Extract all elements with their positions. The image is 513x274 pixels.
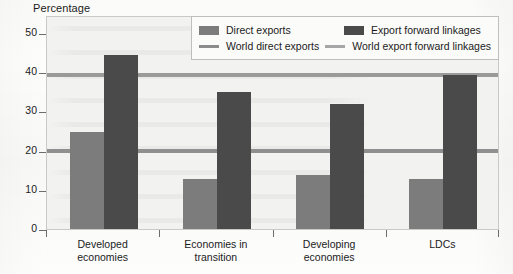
bar bbox=[217, 92, 251, 229]
y-tick-label: 20 bbox=[25, 144, 37, 156]
x-axis-category-line: Developed bbox=[46, 238, 159, 251]
legend-row-swatches: Direct exports Export forward linkages bbox=[199, 22, 491, 38]
x-axis-category-label: LDCs bbox=[386, 238, 499, 251]
x-tick-mark bbox=[159, 230, 160, 237]
x-axis-category-line: LDCs bbox=[386, 238, 499, 251]
x-axis-category-label: Developedeconomies bbox=[46, 238, 159, 263]
x-tick-mark bbox=[498, 230, 499, 237]
y-axis: 01020304050 bbox=[0, 16, 46, 230]
y-tick-mark bbox=[39, 152, 46, 153]
legend-entry-world-direct-exports: World direct exports bbox=[199, 40, 325, 52]
bar bbox=[330, 104, 364, 229]
legend-swatch-export-forward-linkages-icon bbox=[344, 26, 364, 35]
x-axis-category-label: Developingeconomies bbox=[273, 238, 386, 263]
bar bbox=[104, 55, 138, 229]
x-axis-category-line: economies bbox=[273, 251, 386, 264]
legend-entry-world-export-forward-linkages: World export forward linkages bbox=[325, 40, 491, 52]
y-tick-label: 0 bbox=[31, 222, 37, 234]
x-axis-category-line: Economies in bbox=[159, 238, 272, 251]
y-tick-mark bbox=[39, 191, 46, 192]
y-tick-mark bbox=[39, 230, 46, 231]
x-axis-category-line: transition bbox=[159, 251, 272, 264]
x-axis-category-line: economies bbox=[46, 251, 159, 264]
bar bbox=[70, 132, 104, 229]
chart-legend: Direct exports Export forward linkages W… bbox=[191, 16, 499, 60]
y-axis-title: Percentage bbox=[33, 2, 90, 14]
y-tick-mark bbox=[39, 34, 46, 35]
bar bbox=[409, 179, 443, 229]
legend-label-world-direct-exports: World direct exports bbox=[226, 40, 319, 52]
x-axis: DevelopedeconomiesEconomies intransition… bbox=[46, 230, 499, 274]
legend-swatch-direct-exports-icon bbox=[199, 26, 219, 35]
y-tick-label: 30 bbox=[25, 104, 37, 116]
bar bbox=[183, 179, 217, 229]
y-tick-mark bbox=[39, 73, 46, 74]
x-tick-mark bbox=[273, 230, 274, 237]
legend-label-direct-exports: Direct exports bbox=[226, 24, 291, 36]
bar bbox=[443, 75, 477, 229]
bar bbox=[296, 175, 330, 229]
y-tick-label: 50 bbox=[25, 26, 37, 38]
y-tick-mark bbox=[39, 112, 46, 113]
x-axis-category-label: Economies intransition bbox=[159, 238, 272, 263]
y-tick-label: 40 bbox=[25, 65, 37, 77]
legend-entry-export-forward-linkages: Export forward linkages bbox=[344, 24, 481, 36]
legend-line-world-export-forward-linkages-icon bbox=[325, 45, 345, 48]
legend-label-export-forward-linkages: Export forward linkages bbox=[371, 24, 481, 36]
legend-entry-direct-exports: Direct exports bbox=[199, 24, 344, 36]
bar-group bbox=[70, 16, 138, 229]
x-axis-category-line: Developing bbox=[273, 238, 386, 251]
legend-line-world-direct-exports-icon bbox=[199, 45, 219, 48]
y-tick-label: 10 bbox=[25, 183, 37, 195]
x-tick-mark bbox=[386, 230, 387, 237]
x-tick-mark bbox=[46, 230, 47, 237]
chart-figure: Percentage 01020304050 Developedeconomie… bbox=[0, 0, 513, 274]
legend-label-world-export-forward-linkages: World export forward linkages bbox=[352, 40, 491, 52]
legend-row-lines: World direct exports World export forwar… bbox=[199, 38, 491, 54]
